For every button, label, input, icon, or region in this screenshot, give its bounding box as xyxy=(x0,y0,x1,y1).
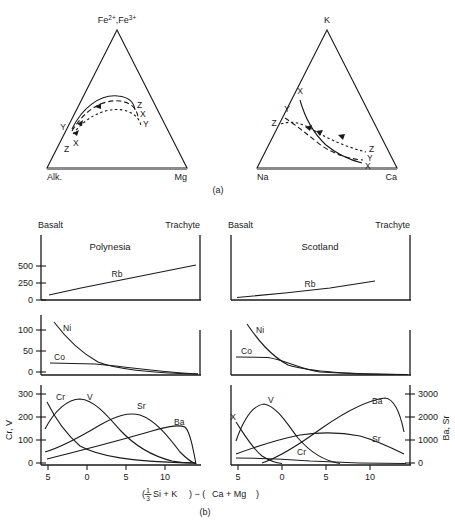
trace-right-yticklabel-3000: 3000 xyxy=(418,389,438,399)
ternary-right-apex-k: K xyxy=(324,15,330,25)
panel-left-basalt-label: Basalt xyxy=(38,220,64,230)
ternary-diagram-afm: Fe2+,Fe3+ Alk. Mg Z X Y Y X Z xyxy=(47,14,187,183)
figure-svg: Fe2+,Fe3+ Alk. Mg Z X Y Y X Z K Na Ca xyxy=(0,0,455,521)
trace-left-xticklabel-5: 5 xyxy=(123,472,128,482)
ternary-left-label-y-left: Y xyxy=(60,122,66,132)
ternary-right-label-y-start: Y xyxy=(284,104,290,114)
part-a-caption: (a) xyxy=(213,185,224,195)
panel-right-title: Scotland xyxy=(302,241,339,252)
ternary-right-outline xyxy=(257,30,397,168)
apex-fe-1: Fe xyxy=(98,15,109,25)
trace-right-ba-label: Ba xyxy=(372,396,383,406)
trace-left-yticklabel-300: 300 xyxy=(18,389,33,399)
rb-left-ticklabel-0: 0 xyxy=(28,295,33,305)
trace-left-sr-label: Sr xyxy=(137,401,146,411)
trace-left-xticklabel-m5: 5 xyxy=(45,472,50,482)
nico-right-ni-label: Ni xyxy=(256,325,264,335)
trace-left-xticklabel-0: 0 xyxy=(84,472,89,482)
ternary-right-curve-x xyxy=(300,100,362,163)
chart-trace-polynesia: 0 100 200 300 Cr, V 5 0 5 10 Cr V Sr Ba xyxy=(4,385,201,482)
trace-left-cr-label: Cr xyxy=(56,392,65,402)
trace-left-yaxis-title: Cr, V xyxy=(4,420,14,440)
nico-left-ticklabel-100: 100 xyxy=(18,325,33,335)
ternary-right-curve-y xyxy=(285,118,363,160)
trace-left-yticklabel-200: 200 xyxy=(18,412,33,422)
apex-sup-2: 3+ xyxy=(129,14,137,21)
trace-left-v-label: V xyxy=(87,392,93,402)
nico-left-ni-curve xyxy=(54,322,198,374)
ternary-right-corner-na: Na xyxy=(257,172,269,182)
panel-left-title: Polynesia xyxy=(89,241,131,252)
ternary-left-arrow-3 xyxy=(73,130,79,136)
xaxis-formula-label: ( 1 3 Si + K ) − ( Ca + Mg ) xyxy=(142,487,259,502)
ternary-left-corner-mg: Mg xyxy=(174,172,187,182)
nico-left-co-label: Co xyxy=(54,352,65,362)
ternary-diagram-knaca: K Na Ca X Y Z Z Y X xyxy=(257,15,397,182)
nico-right-ni-curve xyxy=(247,324,408,375)
trace-right-yticklabel-2000: 2000 xyxy=(418,412,438,422)
ternary-right-corner-ca: Ca xyxy=(385,172,397,182)
trace-right-x-label: X xyxy=(230,412,236,422)
trace-right-yticklabel-1000: 1000 xyxy=(418,435,438,445)
chart-nico-polynesia: 0 50 100 Ni Co xyxy=(18,315,201,377)
apex-fe-2: ,Fe xyxy=(116,15,129,25)
trace-right-cr-label: Cr xyxy=(297,447,306,457)
nico-left-ticklabel-50: 50 xyxy=(23,346,33,356)
trace-left-xticklabel-10: 10 xyxy=(160,472,170,482)
ternary-left-corner-alk: Alk. xyxy=(47,172,62,182)
formula-close-minus: ) − ( xyxy=(189,489,205,499)
rb-left-ticklabel-500: 500 xyxy=(18,261,33,271)
formula-ca-mg: Ca + Mg xyxy=(212,489,246,499)
ternary-left-label-y-right: Y xyxy=(143,119,149,129)
rb-left-curve xyxy=(49,265,196,295)
trace-right-xticklabel-10: 10 xyxy=(365,472,375,482)
panel-left-trachyte-label: Trachyte xyxy=(165,220,200,230)
trace-right-yticklabel-0: 0 xyxy=(418,458,423,468)
trace-right-yaxis-title: Ba, Sr xyxy=(441,415,451,440)
trace-right-cr-curve xyxy=(236,458,406,464)
trace-right-v-curve xyxy=(236,404,340,464)
ternary-left-label-x-left: X xyxy=(73,138,79,148)
chart-rb-scotland: Basalt Trachyte Scotland Rb xyxy=(228,220,411,300)
formula-si-k: Si + K xyxy=(153,489,177,499)
ternary-left-label-x-right: X xyxy=(140,109,146,119)
panel-right-basalt-label: Basalt xyxy=(228,220,254,230)
part-b-caption: (b) xyxy=(200,507,211,517)
rb-right-series-label: Rb xyxy=(305,279,316,289)
ternary-left-apex-label: Fe2+,Fe3+ xyxy=(98,14,137,26)
ternary-right-label-x-start: X xyxy=(297,86,303,96)
trace-left-yticklabel-0: 0 xyxy=(28,458,33,468)
rb-left-series-label: Rb xyxy=(112,269,123,279)
trace-right-sr-label: Sr xyxy=(372,434,381,444)
svg-text:Fe2+,Fe3+: Fe2+,Fe3+ xyxy=(98,14,137,26)
ternary-right-arrow-3 xyxy=(338,134,345,140)
nico-left-ticklabel-0: 0 xyxy=(28,367,33,377)
nico-right-co-label: Co xyxy=(241,346,252,356)
ternary-right-label-z-start: Z xyxy=(271,118,276,128)
nico-right-co-curve xyxy=(236,357,408,375)
formula-denominator: 3 xyxy=(146,495,150,502)
ternary-left-curve-z xyxy=(73,110,141,134)
nico-left-ni-label: Ni xyxy=(63,323,71,333)
formula-open: ( xyxy=(142,489,145,499)
figure-root: Fe2+,Fe3+ Alk. Mg Z X Y Y X Z K Na Ca xyxy=(0,0,455,521)
trace-right-xticklabel-0: 0 xyxy=(279,472,284,482)
svg-text:(: ( xyxy=(142,489,145,499)
chart-rb-polynesia: Basalt Trachyte Polynesia 0 250 500 Rb xyxy=(18,220,201,305)
trace-left-yticklabel-100: 100 xyxy=(18,435,33,445)
ternary-right-label-x-end: X xyxy=(365,161,371,171)
trace-left-ba-label: Ba xyxy=(174,417,185,427)
chart-nico-scotland: Ni Co xyxy=(231,324,411,375)
formula-numerator: 1 xyxy=(146,487,150,494)
trace-right-ba-curve xyxy=(262,398,404,463)
formula-end: ) xyxy=(256,489,259,499)
panel-right-trachyte-label: Trachyte xyxy=(375,220,410,230)
chart-trace-scotland: 0 1000 2000 3000 Ba, Sr 5 0 5 10 X V Cr … xyxy=(230,385,451,482)
trace-right-xticklabel-5: 5 xyxy=(323,472,328,482)
ternary-left-label-z-left: Z xyxy=(64,144,69,154)
trace-right-v-label: V xyxy=(268,395,274,405)
ternary-left-curve-y xyxy=(72,101,138,131)
trace-right-xticklabel-m5: 5 xyxy=(235,472,240,482)
rb-left-ticklabel-250: 250 xyxy=(18,278,33,288)
